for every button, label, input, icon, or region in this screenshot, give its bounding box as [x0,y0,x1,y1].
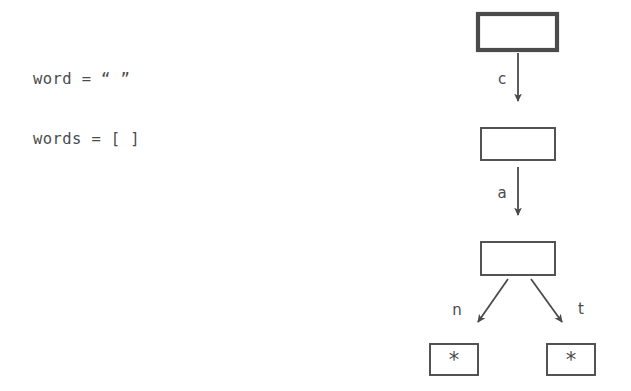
trie-node-root-box [478,14,557,50]
trie-edge-label-t: t [578,300,584,318]
code-annotation-block: word = “ ” words = [ ] [33,29,140,169]
trie-edge-t: t [531,279,584,322]
trie-node-c[interactable] [481,128,555,160]
trie-node-root[interactable] [478,14,557,50]
trie-edge-n-line [478,279,508,322]
trie-edge-label-c: c [498,70,506,88]
trie-edge-c: c [498,53,518,101]
trie-leaf-marker-can: * [449,348,460,372]
trie-edge-t-line [531,279,562,322]
trie-edge-label-n: n [452,301,462,319]
code-line-word: word = “ ” [33,69,140,89]
trie-node-ca-box [481,242,555,275]
trie-node-ca[interactable] [481,242,555,275]
trie-edge-a: a [497,167,518,215]
trie-node-can[interactable]: * [430,344,478,375]
code-line-words: words = [ ] [33,129,140,149]
trie-node-cat[interactable]: * [547,344,595,375]
trie-edge-label-a: a [497,184,506,202]
trie-edge-n: n [452,279,508,322]
trie-node-c-box [481,128,555,160]
trie-diagram: c a n t * [415,0,631,391]
trie-leaf-marker-cat: * [566,348,577,372]
